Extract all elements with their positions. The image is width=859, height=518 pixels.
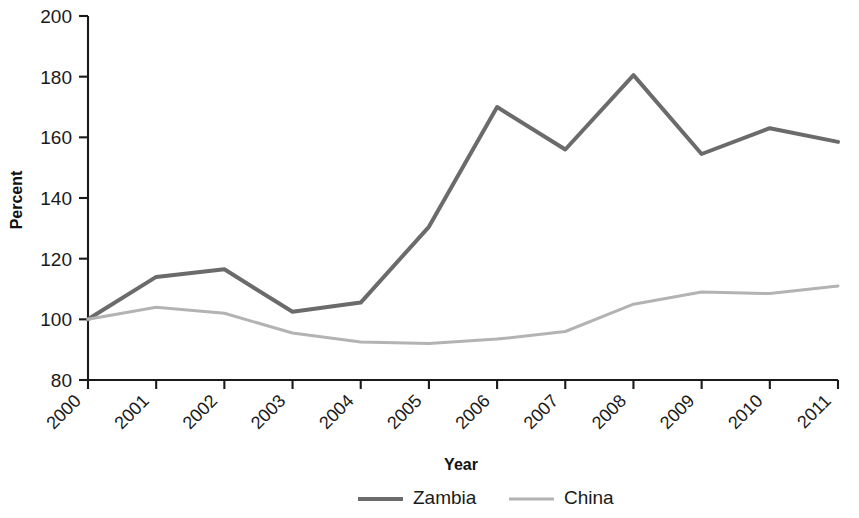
x-tick-label: 2007 bbox=[520, 391, 562, 433]
x-tick-label: 2010 bbox=[724, 391, 766, 433]
x-tick-label: 2000 bbox=[42, 391, 84, 433]
x-tick-label: 2008 bbox=[588, 391, 630, 433]
x-tick-label: 2002 bbox=[179, 391, 221, 433]
x-tick-label: 2005 bbox=[383, 391, 425, 433]
y-tick-label: 200 bbox=[40, 6, 72, 27]
chart-legend: ZambiaChina bbox=[358, 487, 614, 508]
y-tick-label: 140 bbox=[40, 188, 72, 209]
x-axis-title: Year bbox=[444, 456, 478, 473]
y-tick-label: 180 bbox=[40, 67, 72, 88]
series-lines bbox=[88, 75, 838, 344]
y-axis-tick-labels: 80100120140160180200 bbox=[40, 6, 72, 391]
x-tick-label: 2001 bbox=[111, 391, 153, 433]
legend-label-china: China bbox=[564, 487, 614, 508]
x-tick-label: 2006 bbox=[451, 391, 493, 433]
y-tick-label: 100 bbox=[40, 309, 72, 330]
x-axis-ticks bbox=[88, 380, 838, 389]
x-tick-label: 2004 bbox=[315, 391, 357, 433]
y-tick-label: 80 bbox=[51, 370, 72, 391]
y-tick-label: 120 bbox=[40, 249, 72, 270]
series-line-zambia bbox=[88, 75, 838, 319]
y-axis-title: Percent bbox=[8, 170, 25, 229]
x-tick-label: 2009 bbox=[656, 391, 698, 433]
x-tick-label: 2011 bbox=[793, 391, 835, 433]
x-tick-label: 2003 bbox=[247, 391, 289, 433]
y-axis-ticks bbox=[79, 16, 88, 380]
x-axis-tick-labels: 2000200120022003200420052006200720082009… bbox=[42, 391, 834, 433]
chart-canvas: 80100120140160180200 2000200120022003200… bbox=[0, 0, 859, 518]
y-tick-label: 160 bbox=[40, 127, 72, 148]
line-chart: 80100120140160180200 2000200120022003200… bbox=[0, 0, 859, 518]
legend-label-zambia: Zambia bbox=[413, 487, 477, 508]
series-line-china bbox=[88, 286, 838, 344]
